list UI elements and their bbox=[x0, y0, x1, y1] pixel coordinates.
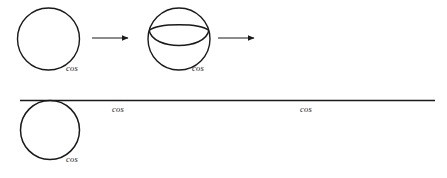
plain-circle-label: cos bbox=[66, 63, 79, 73]
line-label-right: cos bbox=[300, 104, 313, 114]
line-label-left: cos bbox=[112, 104, 125, 114]
bowl-bottom-arc bbox=[149, 31, 209, 46]
bowl-rim-arc bbox=[149, 25, 209, 31]
tangent-circle bbox=[21, 101, 80, 160]
plain-circle-group: cos bbox=[18, 8, 80, 73]
transformation-sequence-row: cos cos bbox=[18, 8, 255, 73]
circle-with-inner-bowl-arc-outline bbox=[148, 8, 210, 70]
diagram-canvas: cos cos cos bbox=[0, 0, 447, 178]
plain-circle bbox=[18, 8, 80, 70]
circle-with-inner-bowl-arc-label: cos bbox=[192, 63, 205, 73]
tangent-circle-label: cos bbox=[66, 154, 79, 164]
diagram-svg: cos cos cos bbox=[0, 0, 447, 178]
circle-with-inner-bowl-arc-group: cos bbox=[148, 8, 210, 73]
circle-on-line-row: cos cos cos bbox=[20, 101, 435, 165]
